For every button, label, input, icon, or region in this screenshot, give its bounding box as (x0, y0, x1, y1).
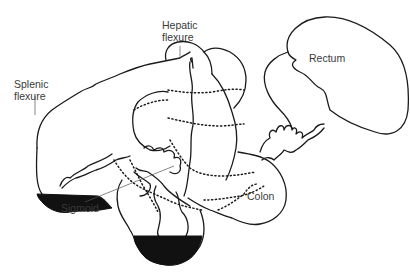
transverse-colon (37, 52, 190, 194)
colon-diagram (0, 0, 410, 273)
label-leaders (35, 46, 180, 202)
label-sigmoid: Sigmoid (61, 202, 99, 214)
rectosigmoid-folds (260, 124, 324, 160)
label-splenic-flexure: Splenic flexure (14, 78, 48, 102)
colon-bulb (188, 152, 286, 225)
label-colon: Colon (247, 190, 274, 202)
label-hepatic-flexure: Hepatic flexure (162, 19, 198, 43)
haustral-markings (114, 89, 264, 212)
rectum-shape (264, 17, 408, 134)
label-rectum: Rectum (309, 52, 345, 64)
